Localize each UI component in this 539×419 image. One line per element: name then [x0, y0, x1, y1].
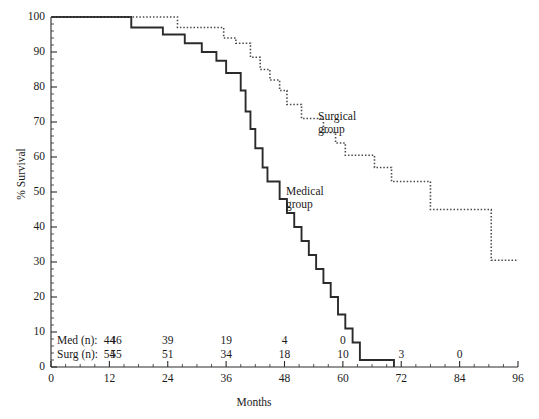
y-tick-label-90: 90: [19, 45, 45, 57]
x-tick-label-24: 24: [153, 372, 183, 384]
x-axis-major-ticks: [51, 361, 518, 367]
at-risk-value: 3: [389, 348, 413, 360]
y-tick-label-10: 10: [19, 325, 45, 337]
y-tick-label-70: 70: [19, 115, 45, 127]
at-risk-value: 19: [214, 334, 238, 346]
y-tick-label-30: 30: [19, 255, 45, 267]
at-risk-value: 0: [448, 348, 472, 360]
series-label-medical-line1: Medical: [286, 185, 324, 198]
at-risk-value: 44: [97, 334, 121, 346]
at-risk-value: 0: [331, 334, 355, 346]
series-label-medical-line2: group: [286, 198, 324, 211]
y-tick-label-0: 0: [19, 360, 45, 372]
y-axis-title: % Survival: [15, 134, 27, 214]
survival-chart-figure: % Survival Months 0102030405060708090100…: [0, 0, 539, 419]
series-line-medical-group: [51, 17, 394, 367]
data-series-group: [51, 17, 518, 367]
at-risk-value: 51: [156, 348, 180, 360]
y-tick-label-50: 50: [19, 185, 45, 197]
x-axis-title: Months: [204, 396, 304, 408]
x-tick-label-0: 0: [36, 372, 66, 384]
y-tick-label-20: 20: [19, 290, 45, 302]
at-risk-row-label-surgical: Surg (n):: [57, 348, 98, 360]
at-risk-value: 10: [331, 348, 355, 360]
series-label-surgical-line2: group: [318, 123, 356, 136]
y-axis-major-ticks: [51, 17, 57, 367]
x-tick-label-12: 12: [94, 372, 124, 384]
y-tick-label-40: 40: [19, 220, 45, 232]
at-risk-row-label-medical: Med (n):: [57, 334, 98, 346]
x-tick-label-48: 48: [270, 372, 300, 384]
series-line-surgical-group: [51, 17, 518, 260]
at-risk-value: 18: [273, 348, 297, 360]
x-tick-label-96: 96: [503, 372, 533, 384]
series-label-surgical-line1: Surgical: [318, 110, 356, 123]
y-tick-label-60: 60: [19, 150, 45, 162]
x-tick-label-60: 60: [328, 372, 358, 384]
axes: [51, 17, 518, 367]
x-tick-label-84: 84: [445, 372, 475, 384]
at-risk-value: 54: [97, 348, 121, 360]
at-risk-value: 39: [156, 334, 180, 346]
x-tick-label-72: 72: [386, 372, 416, 384]
y-tick-label-80: 80: [19, 80, 45, 92]
series-label-surgical-group: Surgical group: [318, 110, 356, 136]
at-risk-value: 34: [214, 348, 238, 360]
x-tick-label-36: 36: [211, 372, 241, 384]
series-label-medical-group: Medical group: [286, 185, 324, 211]
at-risk-value: 4: [273, 334, 297, 346]
y-tick-label-100: 100: [19, 10, 45, 22]
